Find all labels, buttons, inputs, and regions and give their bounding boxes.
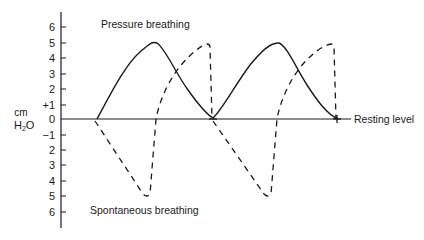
tick-label: 6 xyxy=(49,21,55,33)
tick-label: 2 xyxy=(49,83,55,95)
pressure-breathing-curve xyxy=(97,42,338,119)
tick-label: +1 xyxy=(42,99,55,111)
tick-label: 5 xyxy=(49,190,55,202)
unit-label-cm: cm xyxy=(14,107,27,118)
tick-label: 5 xyxy=(49,37,55,49)
y-tick-labels: 6 5 4 3 2 +1 0 −1 2 3 4 5 6 xyxy=(42,21,55,218)
spontaneous-breathing-label: Spontaneous breathing xyxy=(90,204,199,216)
unit-label-h2o: H2O xyxy=(14,119,35,132)
tick-label: 2 xyxy=(49,144,55,156)
pressure-chart: 6 5 4 3 2 +1 0 −1 2 3 4 5 6 cm H2O Press… xyxy=(0,0,424,240)
tick-label: −1 xyxy=(42,129,55,141)
tick-label: 0 xyxy=(49,113,55,125)
tick-label: 3 xyxy=(49,68,55,80)
tick-label: 4 xyxy=(49,175,55,187)
resting-level-label: Resting level xyxy=(354,113,414,125)
pressure-breathing-label: Pressure breathing xyxy=(101,18,190,30)
tick-label: 6 xyxy=(49,206,55,218)
tick-label: 4 xyxy=(49,52,55,64)
spontaneous-breathing-curve xyxy=(95,44,336,196)
tick-label: 3 xyxy=(49,159,55,171)
